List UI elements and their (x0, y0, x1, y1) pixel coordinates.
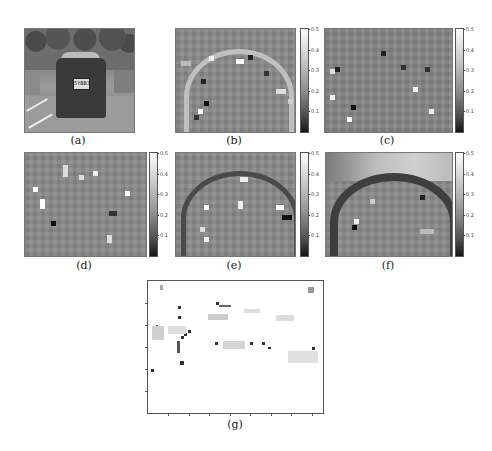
colorbar-tick: 0.3 (466, 192, 474, 197)
x-tick (312, 413, 313, 416)
cell (276, 205, 284, 210)
colorbar-f (455, 152, 464, 257)
cell (330, 69, 335, 74)
colorbar-tick: 0.2 (466, 89, 474, 94)
cell (420, 229, 434, 234)
faint-region (308, 287, 314, 293)
faint-region (288, 351, 318, 363)
heatmap-c (324, 28, 453, 133)
point (188, 330, 191, 333)
colorbar-tick: 0.5 (466, 27, 474, 32)
y-tick (145, 369, 148, 370)
colorbar-tick: 0.5 (160, 151, 168, 156)
point (262, 342, 265, 345)
point (215, 342, 218, 345)
colorbar-tick: 0.3 (311, 192, 319, 197)
cell (79, 175, 84, 180)
colorbar-d (149, 152, 158, 257)
point (312, 347, 315, 350)
heatmap-d (24, 152, 147, 257)
caption-c: (c) (367, 134, 407, 147)
cell (425, 67, 430, 72)
colorbar-tick: 0.4 (160, 172, 168, 177)
caption-g: (g) (215, 418, 255, 431)
cell (107, 235, 112, 243)
arc-pattern (330, 173, 453, 257)
cell (370, 199, 375, 204)
colorbar-tick: 0.3 (160, 192, 168, 197)
cell (125, 191, 130, 196)
cell (401, 65, 406, 70)
cell (351, 105, 356, 110)
point (268, 347, 271, 349)
colorbar-tick: 0.5 (311, 27, 319, 32)
caption-a: (a) (58, 134, 98, 147)
cell (109, 211, 117, 216)
cell (240, 177, 248, 182)
cell (204, 237, 209, 242)
point (250, 342, 253, 345)
colorbar-tick: 0.2 (311, 213, 319, 218)
cell (33, 187, 38, 192)
cell (51, 221, 56, 226)
cell (335, 67, 340, 72)
heatmap-f (325, 152, 453, 257)
colorbar-tick: 0.3 (466, 68, 474, 73)
point (177, 341, 180, 353)
cell (63, 165, 68, 177)
colorbar-tick: 0.4 (466, 48, 474, 53)
colorbar-tick: 0.1 (160, 233, 168, 238)
cell (200, 227, 205, 232)
parked-car-left (25, 72, 40, 95)
y-tick (145, 347, 148, 348)
colorbar-tick: 0.4 (311, 172, 319, 177)
colorbar-tick: 0.1 (311, 109, 319, 114)
colorbar-e (300, 152, 309, 257)
point (178, 316, 181, 319)
faint-region (244, 309, 260, 313)
parked-car-right (114, 70, 134, 93)
cell (413, 87, 418, 92)
cell (238, 201, 243, 209)
x-tick (209, 413, 210, 416)
colorbar-tick: 0.2 (160, 213, 168, 218)
cell (209, 56, 214, 61)
heatmap-b (175, 28, 296, 133)
x-tick (168, 413, 169, 416)
cell (330, 95, 335, 100)
x-tick (230, 413, 231, 416)
x-tick (291, 413, 292, 416)
cell (352, 225, 357, 230)
y-tick (145, 391, 148, 392)
faint-region (160, 285, 163, 290)
caption-b: (b) (214, 134, 254, 147)
caption-e: (e) (214, 259, 254, 272)
x-tick (189, 413, 190, 416)
cell (288, 99, 293, 104)
license-plate: 5YBB3 (73, 78, 90, 89)
cell (381, 51, 386, 56)
cell (264, 71, 269, 76)
cell (248, 55, 253, 60)
cell (354, 219, 359, 224)
caption-d: (d) (64, 259, 104, 272)
cell (204, 101, 209, 106)
cell (276, 89, 286, 94)
cell (93, 171, 98, 176)
faint-region (168, 326, 186, 334)
arc-pattern (181, 171, 296, 257)
cell (201, 79, 206, 84)
y-tick (145, 325, 148, 326)
faint-region (276, 315, 294, 321)
cell (420, 195, 425, 200)
car-photo: 5YBB3 (24, 28, 135, 133)
colorbar-c (455, 28, 464, 133)
cell (181, 61, 191, 66)
cell (347, 117, 352, 122)
sparse-map-g (147, 280, 324, 414)
cell (204, 205, 209, 210)
colorbar-tick: 0.2 (466, 213, 474, 218)
faint-region (208, 314, 228, 320)
colorbar-tick: 0.1 (466, 233, 474, 238)
x-tick (271, 413, 272, 416)
